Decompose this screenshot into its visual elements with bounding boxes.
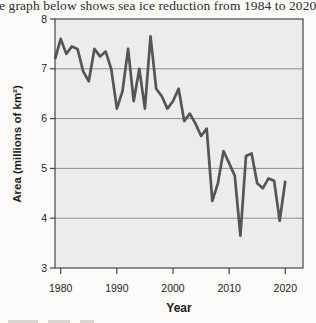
sea-ice-line-chart: 87654319801990200020102020 — [0, 0, 316, 323]
y-tick-label-5: 5 — [41, 162, 47, 174]
x-tick-label-2000: 2000 — [161, 282, 185, 294]
x-tick-label-2020: 2020 — [274, 282, 298, 294]
y-tick-label-4: 4 — [41, 212, 47, 224]
x-tick-label-1980: 1980 — [49, 282, 73, 294]
y-tick-label-3: 3 — [41, 262, 47, 274]
x-axis-label: Year — [55, 301, 303, 315]
y-tick-label-7: 7 — [41, 62, 47, 74]
x-tick-label-1990: 1990 — [105, 282, 129, 294]
y-tick-label-8: 8 — [41, 13, 47, 25]
x-tick-label-2010: 2010 — [217, 282, 241, 294]
y-tick-label-6: 6 — [41, 112, 47, 124]
